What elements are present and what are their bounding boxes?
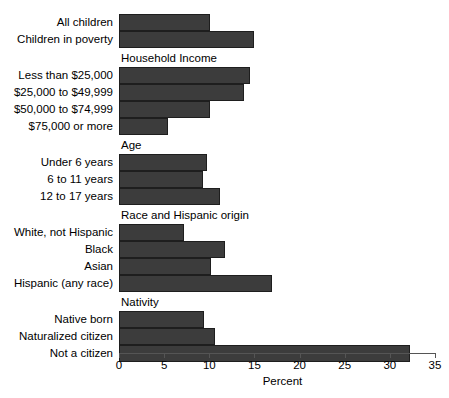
bar (119, 328, 215, 345)
category-label: Hispanic (any race) (14, 275, 113, 292)
x-tick-label: 30 (383, 359, 396, 372)
category-label: 12 to 17 years (40, 188, 113, 205)
bar (119, 31, 254, 48)
x-tick (390, 353, 391, 358)
bar (119, 67, 250, 84)
x-axis-line (119, 353, 436, 354)
x-tick-label: 20 (293, 359, 306, 372)
bar (119, 188, 220, 205)
category-label-row: Children in poverty (0, 31, 116, 48)
category-label: Naturalized citizen (19, 328, 113, 345)
bar-chart: All childrenChildren in povertyLess than… (0, 0, 449, 398)
x-tick (119, 353, 120, 358)
category-label-row: $75,000 or more (0, 118, 116, 135)
category-label: Black (85, 241, 113, 258)
category-label-column: All childrenChildren in povertyLess than… (0, 14, 116, 353)
bar (119, 275, 272, 292)
bar (119, 258, 211, 275)
x-tick-label: 15 (248, 359, 261, 372)
category-label-row: Black (0, 241, 116, 258)
bar (119, 171, 203, 188)
category-label: Under 6 years (41, 154, 113, 171)
bar (119, 311, 204, 328)
group-header-race-and-hispanic-origin: Race and Hispanic origin (121, 208, 249, 222)
x-tick (254, 353, 255, 358)
category-label-row: $25,000 to $49,999 (0, 84, 116, 101)
x-tick-label: 5 (161, 359, 167, 372)
bar (119, 84, 244, 101)
bar (119, 118, 168, 135)
category-label: Less than $25,000 (18, 67, 113, 84)
category-label: $50,000 to $74,999 (14, 101, 113, 118)
bar (119, 101, 210, 118)
bar (119, 154, 207, 171)
category-label-row: 12 to 17 years (0, 188, 116, 205)
x-tick (435, 353, 436, 358)
category-label-row: Under 6 years (0, 154, 116, 171)
category-label-row: White, not Hispanic (0, 224, 116, 241)
category-label: Asian (84, 258, 113, 275)
category-label: Not a citizen (50, 345, 113, 362)
category-label-row: Native born (0, 311, 116, 328)
bar (119, 224, 184, 241)
x-tick-label: 35 (429, 359, 442, 372)
category-label: $25,000 to $49,999 (14, 84, 113, 101)
bar (119, 14, 210, 31)
category-label-row: All children (0, 14, 116, 31)
group-header-nativity: Nativity (121, 295, 159, 309)
category-label-row: Naturalized citizen (0, 328, 116, 345)
category-label-row: Asian (0, 258, 116, 275)
category-label: $75,000 or more (29, 118, 113, 135)
x-tick-label: 10 (203, 359, 216, 372)
category-label-row: Not a citizen (0, 345, 116, 362)
group-header-household-income: Household Income (121, 51, 217, 65)
x-tick (164, 353, 165, 358)
category-label-row: 6 to 11 years (0, 171, 116, 188)
x-tick (300, 353, 301, 358)
category-label: All children (57, 14, 113, 31)
x-axis-title: Percent (0, 375, 449, 387)
category-label-row: Hispanic (any race) (0, 275, 116, 292)
group-header-age: Age (121, 138, 141, 152)
category-label: Children in poverty (17, 31, 113, 48)
x-tick-label: 0 (116, 359, 122, 372)
category-label-row: Less than $25,000 (0, 67, 116, 84)
category-label-row: $50,000 to $74,999 (0, 101, 116, 118)
category-label: 6 to 11 years (47, 171, 113, 188)
x-tick-label: 25 (338, 359, 351, 372)
bar (119, 241, 225, 258)
x-axis-title-text: Percent (263, 375, 303, 387)
x-tick (345, 353, 346, 358)
category-label: White, not Hispanic (14, 224, 113, 241)
category-label: Native born (54, 311, 113, 328)
x-tick (209, 353, 210, 358)
